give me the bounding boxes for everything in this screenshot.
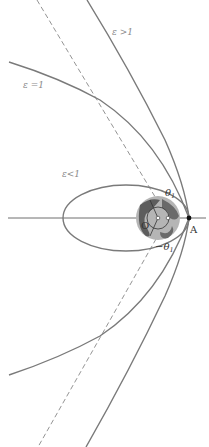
label-focus-o: O: [141, 220, 149, 231]
label-point-a: A: [189, 224, 198, 235]
dashed-line-lower: [38, 232, 160, 447]
label-theta-neg: −θ1: [155, 241, 174, 254]
point-a-marker: [187, 216, 192, 221]
label-parabola: ε =1: [23, 80, 44, 90]
earth-icon: [136, 196, 180, 240]
label-hyperbola: ε >1: [112, 27, 133, 37]
orbit-diagram: ε >1 ε =1 ε<1 θ1 −θ1 O A: [0, 0, 209, 447]
label-ellipse: ε<1: [62, 169, 80, 179]
dashed-line: [37, 0, 160, 205]
